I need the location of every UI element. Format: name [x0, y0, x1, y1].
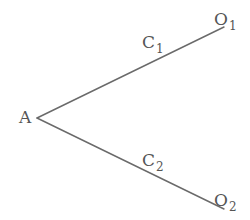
edge-label-c1-subscript: 1	[156, 42, 164, 56]
edge-label-c1: C1	[142, 32, 164, 56]
node-label-a: A	[18, 107, 32, 127]
node-label-o1-subscript: 1	[229, 19, 237, 33]
decision-tree-diagram: A O1 O2 C1 C2	[0, 0, 250, 220]
edge-a-to-o1	[37, 27, 224, 118]
node-label-o2: O2	[214, 190, 237, 214]
node-label-o2-subscript: 2	[229, 200, 237, 214]
edge-label-c2-subscript: 2	[156, 160, 164, 174]
edge-a-to-o2	[37, 118, 224, 209]
node-label-o1: O1	[214, 9, 237, 33]
